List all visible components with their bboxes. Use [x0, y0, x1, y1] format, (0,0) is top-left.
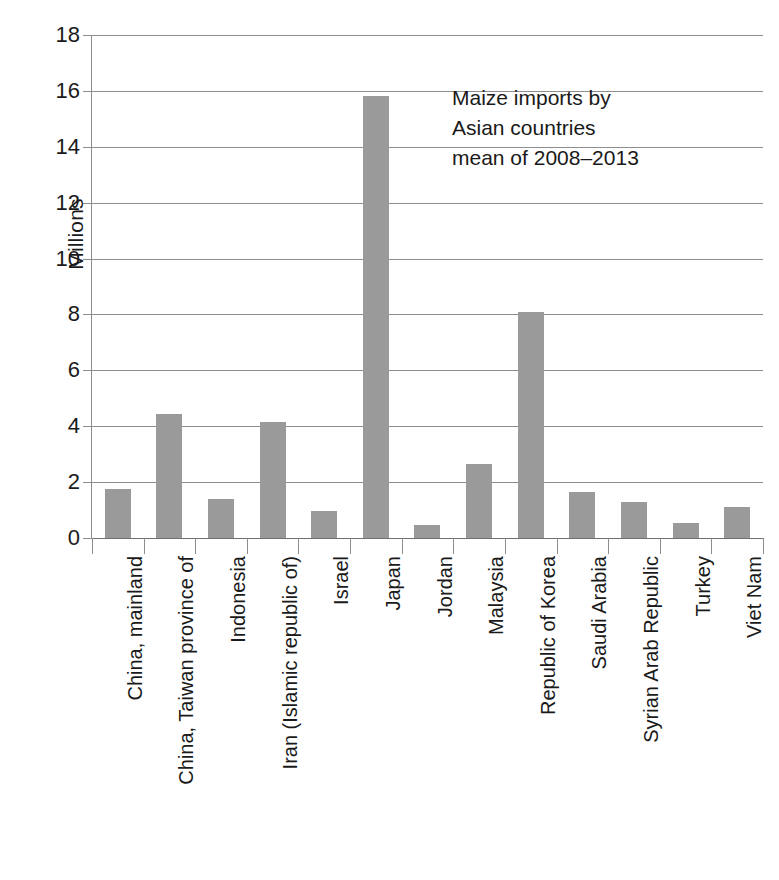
- x-axis-tick-mark: [660, 538, 661, 554]
- x-axis-tick-mark: [195, 538, 196, 554]
- x-axis-tick-mark: [144, 538, 145, 554]
- y-axis-tick-mark: [83, 538, 92, 539]
- bar[interactable]: [260, 422, 286, 538]
- y-axis-tick-mark: [83, 314, 92, 315]
- y-axis-tick-label: 8: [68, 303, 80, 325]
- bar[interactable]: [363, 96, 389, 538]
- x-axis-category-label: Turkey: [692, 556, 712, 616]
- y-axis-tick-label: 6: [68, 359, 80, 381]
- bar-slot: [660, 35, 712, 538]
- x-axis-category-label: Japan: [383, 556, 403, 611]
- plot-area: [92, 35, 763, 538]
- bar-slot: [402, 35, 454, 538]
- y-axis-tick-label: 16: [56, 80, 80, 102]
- bar-slot: [298, 35, 350, 538]
- x-axis-tick-mark: [763, 538, 764, 554]
- y-axis-tick-mark: [83, 203, 92, 204]
- bar[interactable]: [156, 414, 182, 538]
- x-axis-tick-mark: [298, 538, 299, 554]
- y-axis-tick-mark: [83, 147, 92, 148]
- bar-slot: [247, 35, 299, 538]
- x-axis-category-label: Malaysia: [486, 556, 506, 635]
- chart-annotation: Maize imports byAsian countriesmean of 2…: [452, 83, 639, 173]
- x-axis-tick-mark: [92, 538, 93, 554]
- x-axis-category-label: Syrian Arab Republic: [641, 556, 661, 743]
- y-axis-tick-mark: [83, 482, 92, 483]
- bar[interactable]: [569, 492, 595, 538]
- y-axis-tick-label: 12: [56, 192, 80, 214]
- y-axis-tick-label: 0: [68, 527, 80, 549]
- x-axis-category-label: Jordan: [434, 556, 454, 617]
- x-axis-category-label: Republic of Korea: [538, 556, 558, 715]
- y-axis-tick-label: 10: [56, 248, 80, 270]
- x-axis-category-label: Iran (Islamic republic of): [279, 556, 299, 769]
- bar-chart: Millions 181614121086420 China, mainland…: [0, 0, 779, 880]
- y-axis-tick-mark: [83, 35, 92, 36]
- x-axis-tick-mark: [505, 538, 506, 554]
- bar[interactable]: [105, 489, 131, 538]
- y-axis-tick-mark: [83, 370, 92, 371]
- annotation-line: Asian countries: [452, 113, 639, 143]
- bar[interactable]: [724, 507, 750, 538]
- x-axis-category-label: China, Taiwan province of: [176, 556, 196, 785]
- x-axis-tick-mark: [402, 538, 403, 554]
- y-axis-tick-labels: 181614121086420: [36, 0, 80, 880]
- x-axis-category-label: Indonesia: [228, 556, 248, 643]
- x-axis-tick-mark: [711, 538, 712, 554]
- x-axis-tick-mark: [350, 538, 351, 554]
- x-axis-tick-mark: [557, 538, 558, 554]
- bar[interactable]: [518, 312, 544, 538]
- bar[interactable]: [414, 525, 440, 538]
- y-axis-tick-mark: [83, 426, 92, 427]
- x-axis-tick-marks: [92, 538, 763, 556]
- annotation-line: mean of 2008–2013: [452, 143, 639, 173]
- x-axis-category-label: Saudi Arabia: [589, 556, 609, 669]
- x-axis-tick-mark: [608, 538, 609, 554]
- y-axis-tick-label: 4: [68, 415, 80, 437]
- x-axis-category-label: China, mainland: [125, 556, 145, 701]
- bar-slot: [92, 35, 144, 538]
- y-axis-tick-label: 18: [56, 24, 80, 46]
- y-axis-tick-label: 14: [56, 136, 80, 158]
- y-axis-tick-mark: [83, 91, 92, 92]
- y-axis-tick-mark: [83, 259, 92, 260]
- bar-slot: [350, 35, 402, 538]
- bar-slot: [195, 35, 247, 538]
- bars-layer: [92, 35, 763, 538]
- x-axis-category-label: Israel: [331, 556, 351, 605]
- bar[interactable]: [466, 464, 492, 538]
- annotation-line: Maize imports by: [452, 83, 639, 113]
- x-axis-category-label: Viet Nam: [744, 556, 764, 638]
- bar-slot: [144, 35, 196, 538]
- x-axis-tick-mark: [453, 538, 454, 554]
- y-axis-tick-label: 2: [68, 471, 80, 493]
- bar[interactable]: [621, 502, 647, 538]
- bar[interactable]: [208, 499, 234, 538]
- x-axis-tick-mark: [247, 538, 248, 554]
- bar[interactable]: [311, 511, 337, 538]
- x-axis-category-labels: China, mainlandChina, Taiwan province of…: [92, 556, 763, 880]
- bar[interactable]: [673, 523, 699, 538]
- bar-slot: [711, 35, 763, 538]
